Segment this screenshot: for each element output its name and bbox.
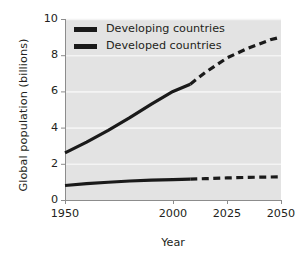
legend-label-developing: Developing countries <box>106 23 225 35</box>
y-axis-title: Global population (billions) <box>16 15 32 215</box>
y-axis-tick-label: 4 <box>32 121 58 134</box>
y-axis-tick-label: 10 <box>32 12 58 25</box>
x-axis-tick-label: 2025 <box>205 207 249 220</box>
y-axis-ticks <box>61 20 65 201</box>
x-axis-tick-label: 2050 <box>259 207 303 220</box>
y-axis-tick-label: 0 <box>32 193 58 206</box>
population-chart-figure: 0246810 1950200020252050 Global populati… <box>0 0 303 257</box>
x-axis-tick-label: 1950 <box>43 207 87 220</box>
legend-swatch-developed <box>74 44 97 49</box>
x-axis-tick-label: 2000 <box>151 207 195 220</box>
y-axis-tick-label: 6 <box>32 84 58 97</box>
x-axis-title: Year <box>65 236 281 249</box>
legend-label-developed: Developed countries <box>106 40 222 52</box>
y-axis-tick-label: 8 <box>32 48 58 61</box>
legend-item-developed: Developed countries <box>74 39 225 53</box>
legend-swatch-developing <box>74 27 97 32</box>
legend-item-developing: Developing countries <box>74 22 225 36</box>
chart-legend: Developing countries Developed countries <box>74 22 225 56</box>
y-axis-tick-label: 2 <box>32 157 58 170</box>
